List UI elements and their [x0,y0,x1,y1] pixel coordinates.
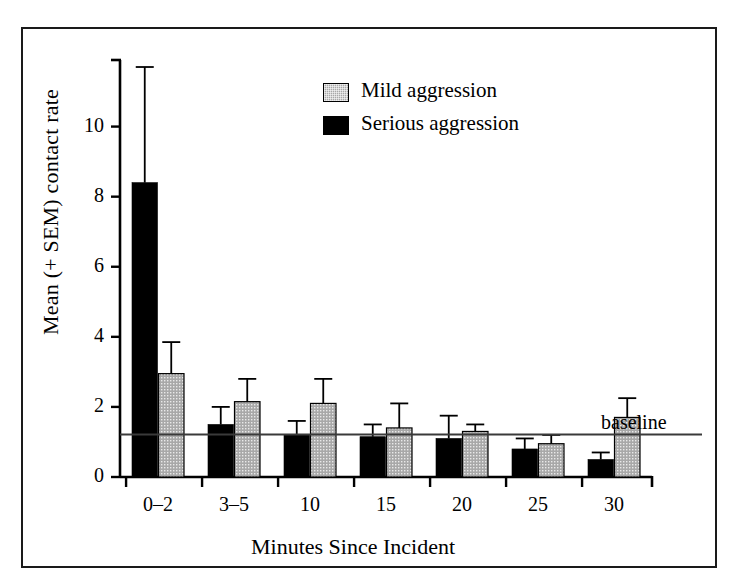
bar-mild-aggression [463,431,489,477]
x-axis-title: Minutes Since Incident [23,534,683,560]
bar-serious-aggression [284,435,310,477]
y-tick-label: 8 [64,184,104,207]
bar-serious-aggression [132,183,158,477]
x-tick-label: 30 [569,493,659,516]
y-tick-label: 10 [64,114,104,137]
bar-serious-aggression [588,459,614,477]
bar-chart-plot [23,29,715,566]
y-tick-label: 2 [64,394,104,417]
y-tick-label: 6 [64,254,104,277]
legend-swatch-serious [323,116,349,135]
bar-serious-aggression [436,438,462,477]
legend-label-mild: Mild aggression [361,78,497,103]
bar-serious-aggression [208,424,234,477]
baseline-annotation-label: baseline [601,411,667,434]
bar-mild-aggression [539,444,565,477]
y-tick-label: 4 [64,324,104,347]
bar-mild-aggression [235,402,261,477]
figure-border: Mean (+ SEM) contact rate Minutes Since … [21,27,717,568]
bar-mild-aggression [311,403,337,477]
y-tick-label: 0 [64,464,104,487]
figure-canvas: Mean (+ SEM) contact rate Minutes Since … [0,0,731,586]
bar-serious-aggression [360,437,386,477]
y-axis-title: Mean (+ SEM) contact rate [38,32,64,392]
bar-mild-aggression [159,374,185,477]
legend-swatch-mild [323,83,349,102]
bar-serious-aggression [512,449,538,477]
legend-label-serious: Serious aggression [361,111,519,136]
